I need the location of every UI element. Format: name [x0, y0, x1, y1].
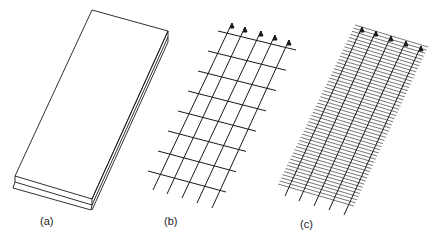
panel-c-label: (c) — [300, 218, 313, 230]
panel-a-label: (a) — [40, 215, 53, 227]
panel-b-grid — [148, 23, 296, 208]
panel-a-slab — [13, 10, 168, 210]
figure-canvas — [0, 0, 440, 237]
panel-b-label: (b) — [164, 215, 177, 227]
panel-c-grid — [278, 25, 428, 215]
